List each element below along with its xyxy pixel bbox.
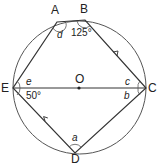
angle-b-label: b [124, 91, 130, 101]
cyclic-pentagon-diagram: A B C D E O d 125° e 50° c b a [0, 0, 161, 164]
angle-e-label: e [26, 77, 32, 87]
point-b-label: B [80, 3, 88, 15]
angle-b-125-label: 125° [71, 28, 92, 38]
angle-d-label: d [57, 30, 63, 40]
point-c-label: C [148, 82, 157, 94]
point-a-label: A [51, 4, 59, 16]
angle-50-label: 50° [26, 91, 41, 101]
angle-c-label: c [125, 77, 130, 87]
point-d-label: D [71, 153, 80, 164]
angle-a-label: a [72, 133, 78, 143]
point-e-label: E [1, 82, 9, 94]
center-o-label: O [75, 73, 84, 85]
